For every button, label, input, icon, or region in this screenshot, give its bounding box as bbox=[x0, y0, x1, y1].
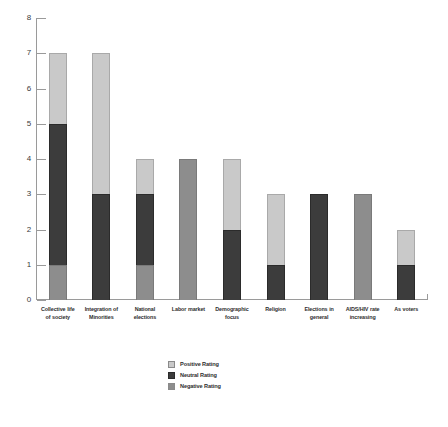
x-axis-category-labels: Collective lifeof societyIntegration ofM… bbox=[36, 306, 428, 340]
bar-segment-positive[interactable] bbox=[223, 159, 241, 230]
bar-group[interactable] bbox=[310, 194, 328, 300]
bar-series-container bbox=[36, 18, 428, 300]
y-axis-tick-label: 5 bbox=[27, 118, 31, 129]
bar-segment-positive[interactable] bbox=[397, 230, 415, 265]
bar-segment-negative[interactable] bbox=[354, 194, 372, 300]
bar-segment-positive[interactable] bbox=[92, 53, 110, 194]
y-axis-tick-label: 4 bbox=[27, 153, 31, 164]
legend-swatch-icon bbox=[168, 361, 175, 368]
x-axis-label: Elections ingeneral bbox=[297, 306, 341, 321]
bar-segment-positive[interactable] bbox=[136, 159, 154, 194]
bar-group[interactable] bbox=[179, 159, 197, 300]
bar-group[interactable] bbox=[397, 230, 415, 301]
y-axis-tick-label: 1 bbox=[27, 259, 31, 270]
legend-swatch-icon bbox=[168, 372, 175, 379]
x-axis-label: Demographicfocus bbox=[210, 306, 254, 321]
y-axis-tick-label: 2 bbox=[27, 224, 31, 235]
bar-segment-negative[interactable] bbox=[179, 159, 197, 300]
chart-legend: Positive RatingNeutral RatingNegative Ra… bbox=[168, 360, 221, 390]
legend-item[interactable]: Positive Rating bbox=[168, 360, 221, 368]
bar-segment-positive[interactable] bbox=[49, 53, 67, 124]
x-axis-label: AIDS/HIV rateincreasing bbox=[341, 306, 385, 321]
y-axis-tick: 0 bbox=[37, 300, 46, 301]
bar-segment-neutral[interactable] bbox=[397, 265, 415, 300]
bar-group[interactable] bbox=[223, 159, 241, 300]
bar-segment-neutral[interactable] bbox=[49, 124, 67, 265]
bar-segment-negative[interactable] bbox=[49, 265, 67, 300]
bar-segment-neutral[interactable] bbox=[310, 194, 328, 300]
legend-item[interactable]: Negative Rating bbox=[168, 382, 221, 390]
y-axis-tick-label: 6 bbox=[27, 83, 31, 94]
plot-area: 012345678 bbox=[36, 18, 428, 300]
y-axis-tick-label: 0 bbox=[27, 294, 31, 305]
bar-segment-positive[interactable] bbox=[267, 194, 285, 265]
bar-segment-negative[interactable] bbox=[136, 265, 154, 300]
legend-item[interactable]: Neutral Rating bbox=[168, 371, 221, 379]
x-axis-label: As voters bbox=[384, 306, 428, 314]
bar-segment-neutral[interactable] bbox=[267, 265, 285, 300]
legend-label: Negative Rating bbox=[180, 382, 221, 390]
x-axis-label: Labor market bbox=[167, 306, 211, 314]
bar-segment-neutral[interactable] bbox=[136, 194, 154, 265]
bar-segment-neutral[interactable] bbox=[92, 194, 110, 300]
legend-swatch-icon bbox=[168, 383, 175, 390]
bar-group[interactable] bbox=[354, 194, 372, 300]
bar-group[interactable] bbox=[136, 159, 154, 300]
bar-group[interactable] bbox=[267, 194, 285, 300]
bar-group[interactable] bbox=[49, 53, 67, 300]
x-axis-label: Religion bbox=[254, 306, 298, 314]
x-axis-label: Nationalelections bbox=[123, 306, 167, 321]
legend-label: Positive Rating bbox=[180, 360, 219, 368]
y-axis-tick-label: 8 bbox=[27, 12, 31, 23]
y-axis-tick-label: 3 bbox=[27, 188, 31, 199]
legend-label: Neutral Rating bbox=[180, 371, 217, 379]
bar-group[interactable] bbox=[92, 53, 110, 300]
y-axis-tick-label: 7 bbox=[27, 47, 31, 58]
x-axis-label: Collective lifeof society bbox=[36, 306, 80, 321]
bar-segment-neutral[interactable] bbox=[223, 230, 241, 301]
stacked-bar-chart: 012345678 Collective lifeof societyInteg… bbox=[0, 0, 448, 427]
x-axis-label: Integration ofMinorities bbox=[80, 306, 124, 321]
